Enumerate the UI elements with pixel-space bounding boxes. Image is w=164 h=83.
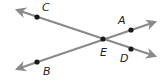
point-c — [34, 14, 39, 19]
label-e: E — [100, 46, 107, 59]
label-b: B — [43, 65, 51, 78]
label-d: D — [120, 52, 128, 65]
intersecting-lines-diagram: C A E D B — [0, 0, 164, 83]
point-e — [100, 36, 105, 41]
point-a — [128, 27, 133, 32]
label-a: A — [117, 14, 126, 27]
point-b — [34, 59, 39, 64]
point-d — [128, 46, 133, 51]
label-c: C — [42, 1, 50, 14]
